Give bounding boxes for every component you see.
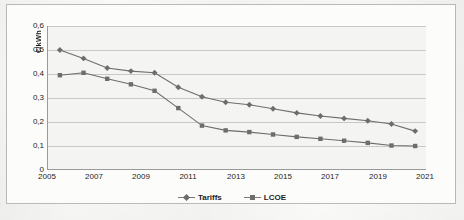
data-point-diamond (317, 113, 323, 119)
y-tick-label: 0,4 (22, 70, 44, 78)
y-tick-label: 0,3 (22, 94, 44, 102)
legend-marker-square-icon (244, 194, 261, 202)
x-tick-label: 2015 (274, 173, 292, 181)
data-point-diamond (412, 128, 418, 134)
series-plot (48, 26, 427, 170)
chart-figure: €/kWh 0,6 0,5 0,4 0,3 0,2 0,1 0 2005 200… (0, 0, 464, 220)
data-point-square (176, 106, 180, 110)
data-point-square (105, 77, 109, 81)
y-tick-label: 0,2 (22, 118, 44, 126)
y-tick-label: 0,6 (22, 22, 44, 30)
data-point-square (200, 123, 204, 127)
data-point-square (318, 137, 322, 141)
legend-item-tariffs[interactable]: Tariffs (178, 193, 222, 202)
plot-area (47, 26, 426, 170)
data-point-diamond (270, 106, 276, 112)
data-point-square (389, 143, 393, 147)
data-point-diamond (294, 110, 300, 116)
x-tick-label: 2021 (416, 173, 434, 181)
data-point-diamond (57, 47, 63, 53)
data-point-square (223, 128, 227, 132)
chart-legend: Tariffs LCOE (0, 193, 464, 202)
data-point-square (271, 132, 275, 136)
data-point-diamond (341, 115, 347, 121)
data-point-diamond (389, 121, 395, 127)
series-line-lcoe (60, 73, 415, 146)
x-tick-label: 2005 (38, 173, 56, 181)
data-point-square (366, 141, 370, 145)
data-point-square (247, 130, 251, 134)
data-point-diamond (175, 84, 181, 90)
data-point-diamond (223, 99, 229, 105)
data-point-square (413, 144, 417, 148)
x-tick-label: 2017 (321, 173, 339, 181)
legend-item-lcoe[interactable]: LCOE (244, 193, 286, 202)
data-point-square (58, 73, 62, 77)
data-point-diamond (128, 68, 134, 74)
legend-label: LCOE (264, 193, 286, 202)
legend-label: Tariffs (198, 193, 222, 202)
data-point-diamond (199, 94, 205, 100)
data-point-diamond (152, 70, 158, 76)
x-tick-label: 2013 (227, 173, 245, 181)
data-point-square (342, 139, 346, 143)
x-tick-label: 2011 (179, 173, 196, 181)
data-point-square (129, 82, 133, 86)
data-point-square (295, 135, 299, 139)
legend-marker-diamond-icon (178, 194, 195, 202)
x-tick-label: 2009 (132, 173, 150, 181)
y-tick-label: 0,1 (22, 142, 44, 150)
series-line-tariffs (60, 50, 415, 131)
x-tick-label: 2007 (85, 173, 103, 181)
data-point-diamond (246, 102, 252, 108)
data-point-diamond (104, 65, 110, 71)
data-point-diamond (81, 55, 87, 61)
data-point-diamond (365, 118, 371, 124)
data-point-square (152, 89, 156, 93)
data-point-square (81, 71, 85, 75)
x-tick-label: 2019 (369, 173, 387, 181)
y-tick-label: 0,5 (22, 46, 44, 54)
